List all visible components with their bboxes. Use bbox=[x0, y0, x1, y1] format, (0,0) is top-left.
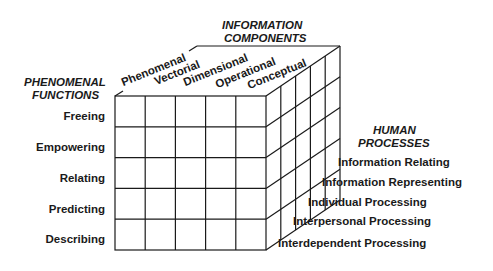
function-label-relating: Relating bbox=[5, 172, 105, 184]
process-label-information-relating: Information Relating bbox=[338, 156, 450, 168]
phenomenal-functions-title-line2: FUNCTIONS bbox=[32, 89, 99, 102]
function-label-freeing: Freeing bbox=[5, 110, 105, 122]
process-label-interdependent-processing: Interdependent Processing bbox=[278, 237, 426, 249]
information-components-title-line2: COMPONENTS bbox=[224, 32, 306, 45]
phenomenal-functions-title-line1: PHENOMENAL bbox=[24, 76, 106, 89]
human-processes-title-line1: HUMAN bbox=[373, 124, 416, 137]
front-face bbox=[115, 96, 266, 250]
information-components-title-line1: INFORMATION bbox=[222, 19, 302, 32]
function-label-predicting: Predicting bbox=[5, 203, 105, 215]
process-label-individual-processing: Individual Processing bbox=[308, 196, 427, 208]
process-label-information-representing: Information Representing bbox=[322, 176, 462, 188]
process-label-interpersonal-processing: Interpersonal Processing bbox=[293, 215, 431, 227]
function-label-describing: Describing bbox=[5, 233, 105, 245]
human-processes-title-line2: PROCESSES bbox=[358, 137, 430, 150]
function-label-empowering: Empowering bbox=[5, 141, 105, 153]
